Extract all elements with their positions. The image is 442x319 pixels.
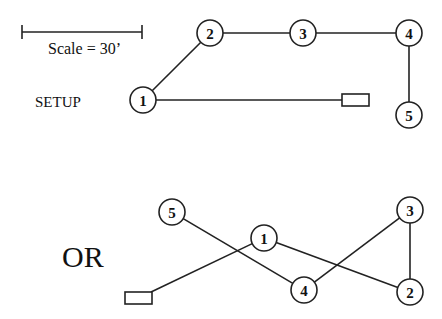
node-label: 1	[139, 93, 147, 109]
setup-edge-1-2	[152, 42, 201, 91]
diagram-canvas: Scale = 30’ SETUP OR 12345 51432	[0, 0, 442, 319]
alt-node-4: 4	[291, 277, 317, 303]
alt-edge-4-5	[183, 219, 293, 284]
alt-node-3: 3	[397, 197, 423, 223]
alt-node-5: 5	[159, 199, 185, 225]
scale-label: Scale = 30’	[48, 40, 121, 57]
diagram-svg: Scale = 30’ SETUP OR 12345 51432	[0, 0, 442, 319]
setup-node-4: 4	[396, 20, 422, 46]
alt-node-2: 2	[397, 279, 423, 305]
node-label: 3	[299, 26, 307, 42]
alt-node-1: 1	[251, 225, 277, 251]
node-label: 3	[406, 203, 414, 219]
node-label: 4	[405, 26, 413, 42]
alt-rectangle-marker	[125, 292, 152, 304]
setup-node-1: 1	[130, 87, 156, 113]
or-label: OR	[62, 240, 104, 273]
setup-node-3: 3	[290, 20, 316, 46]
setup-rectangle-marker	[342, 94, 369, 106]
node-label: 5	[405, 108, 413, 124]
setup-node-5: 5	[396, 102, 422, 128]
setup-diagram: 12345	[130, 20, 422, 128]
node-label: 1	[260, 231, 268, 247]
node-label: 2	[206, 26, 214, 42]
scale-bar: Scale = 30’	[22, 25, 142, 57]
setup-label: SETUP	[35, 94, 81, 110]
node-label: 5	[168, 205, 176, 221]
node-label: 4	[300, 283, 308, 299]
alternative-diagram: 51432	[125, 197, 423, 305]
setup-node-2: 2	[197, 20, 223, 46]
node-label: 2	[406, 285, 414, 301]
